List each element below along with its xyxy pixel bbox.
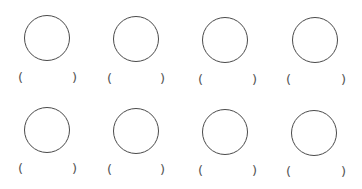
circle-shape bbox=[202, 109, 248, 155]
close-paren: ) bbox=[252, 73, 257, 87]
circle-shape bbox=[202, 17, 248, 63]
open-paren: ( bbox=[18, 162, 23, 176]
circle-shape bbox=[292, 17, 338, 63]
circle-shape bbox=[113, 16, 159, 62]
close-paren: ) bbox=[160, 72, 165, 86]
circle-shape bbox=[24, 107, 70, 153]
open-paren: ( bbox=[198, 73, 203, 87]
circle-shape bbox=[24, 15, 70, 61]
close-paren: ) bbox=[341, 73, 346, 87]
open-paren: ( bbox=[198, 164, 203, 178]
close-paren: ) bbox=[72, 71, 77, 85]
close-paren: ) bbox=[72, 162, 77, 176]
circle-shape bbox=[291, 110, 337, 156]
close-paren: ) bbox=[341, 165, 346, 179]
circle-shape bbox=[113, 108, 159, 154]
open-paren: ( bbox=[286, 73, 291, 87]
open-paren: ( bbox=[107, 72, 112, 86]
open-paren: ( bbox=[286, 165, 291, 179]
close-paren: ) bbox=[160, 163, 165, 177]
open-paren: ( bbox=[18, 71, 23, 85]
close-paren: ) bbox=[252, 164, 257, 178]
open-paren: ( bbox=[107, 163, 112, 177]
